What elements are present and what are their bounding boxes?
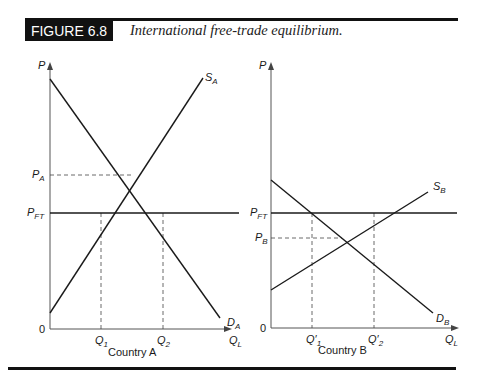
demand-curve-a	[50, 79, 220, 318]
q2-label: Q2	[157, 334, 171, 349]
demand-curve-b	[271, 180, 433, 313]
supply-label-a: SA	[205, 71, 218, 86]
demand-label-b: DB	[436, 312, 450, 327]
supply-label-b: SB	[433, 180, 446, 195]
demand-label-a: DA	[227, 316, 240, 331]
pb-label: PB	[255, 231, 268, 246]
pa-label: PA	[32, 168, 45, 183]
bottom-rule	[8, 367, 456, 370]
supply-curve-b	[271, 192, 428, 290]
x-axis-label-a: QL	[229, 334, 242, 349]
x-axis-label-b: QL	[445, 333, 458, 348]
origin-label-a: 0	[39, 323, 45, 335]
y-axis-label: P	[38, 59, 46, 71]
country-a-chart: P SA DA PA PFT 0 Q1 Q2 QL Country A	[27, 59, 242, 358]
chart-area: P SA DA PA PFT 0 Q1 Q2 QL Country A P SB…	[0, 0, 481, 380]
origin-label-b: 0	[260, 322, 266, 334]
country-b-chart: P SB DB PFT PB 0 Q′1 Q′2 QL Country B	[250, 59, 458, 356]
pft-label-b: PFT	[250, 206, 268, 221]
supply-curve-a	[50, 78, 203, 313]
country-b-label: Country B	[318, 344, 367, 356]
q1-label: Q1	[95, 334, 108, 349]
q2p-label: Q′2	[368, 333, 384, 348]
pft-label-a: PFT	[27, 206, 45, 221]
y-axis-label: P	[259, 59, 267, 71]
country-a-label: Country A	[108, 346, 157, 358]
